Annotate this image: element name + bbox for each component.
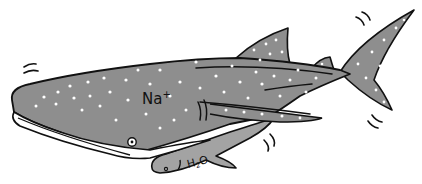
tail-fin — [340, 10, 414, 110]
whale-shark-illustration: Na+ H2O — [0, 0, 422, 184]
eye-icon — [128, 138, 136, 146]
